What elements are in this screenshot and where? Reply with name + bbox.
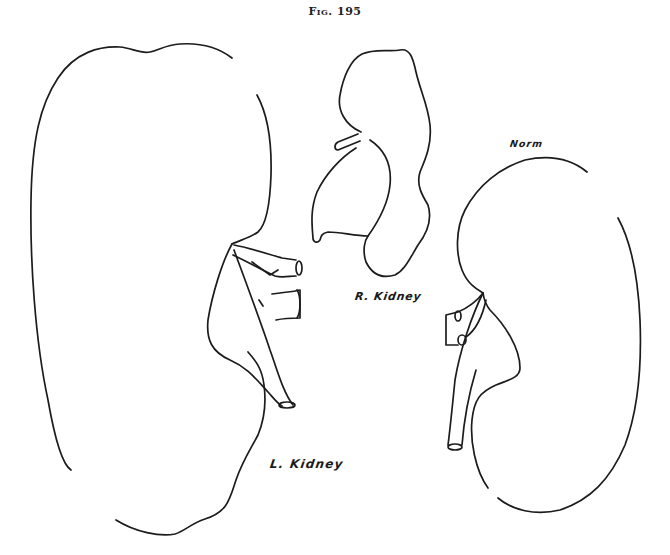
label-right-kidney: R. Kidney bbox=[354, 290, 422, 303]
label-normal: Norm bbox=[509, 138, 544, 149]
left-kidney-pelvis bbox=[208, 244, 282, 406]
kidney-drawings bbox=[0, 0, 670, 555]
normal-kidney-ureter-end bbox=[448, 444, 462, 450]
left-kidney-vessel-lower-cap bbox=[297, 290, 300, 318]
normal-kidney-outline-upper bbox=[457, 158, 587, 293]
left-kidney-vessel-upper-end bbox=[296, 261, 302, 275]
left-kidney-vessel-lower bbox=[272, 290, 300, 320]
left-kidney-outline-right bbox=[232, 95, 271, 244]
left-kidney-outline-upper bbox=[31, 44, 232, 470]
left-kidney-vessel-inner bbox=[252, 262, 278, 275]
normal-kidney-ureter bbox=[448, 293, 483, 445]
label-left-kidney: L. Kidney bbox=[269, 457, 345, 471]
right-kidney-lower-lobe bbox=[312, 148, 368, 242]
left-kidney-drawing bbox=[31, 44, 302, 535]
right-kidney-outline bbox=[339, 50, 430, 277]
left-kidney-vessel-upper bbox=[234, 245, 296, 260]
figure-195: Fig. 195 bbox=[0, 0, 670, 555]
left-kidney-outline-lower bbox=[116, 352, 265, 535]
normal-kidney-drawing bbox=[446, 158, 640, 513]
normal-kidney-vessel-upper bbox=[446, 293, 483, 345]
left-kidney-branch bbox=[259, 300, 263, 306]
right-kidney-drawing bbox=[312, 50, 430, 277]
